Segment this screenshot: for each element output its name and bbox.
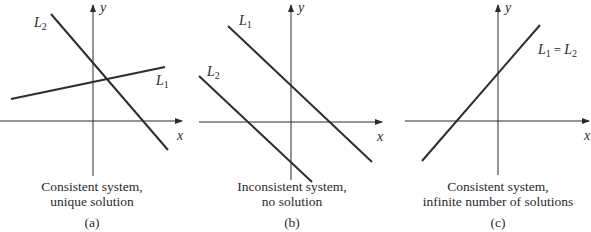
panel-c: y x L1=L2 Consistent system, infinite nu… [405, 0, 591, 230]
x-axis-label: x [176, 128, 184, 143]
panel-tag: (c) [491, 215, 506, 230]
x-axis-label: x [376, 129, 384, 144]
line-l2 [199, 76, 312, 182]
label-l1-equals-l2: L1=L2 [537, 42, 577, 59]
caption-line2: infinite number of solutions [423, 194, 573, 209]
panel-b: y x L1 L2 Inconsistent system, no soluti… [199, 0, 384, 230]
y-axis-label: y [503, 0, 512, 15]
panel-tag: (b) [284, 215, 300, 230]
caption-line1: Inconsistent system, [237, 179, 347, 194]
panel-tag: (a) [85, 215, 100, 230]
caption-line2: unique solution [50, 194, 134, 209]
label-l2: L2 [33, 15, 47, 32]
line-l1-l2 [422, 25, 540, 161]
line-l2 [51, 14, 168, 150]
panel-a: y x L2 L1 Consistent system, unique solu… [0, 0, 184, 230]
line-l1 [228, 26, 372, 162]
x-axis-label: x [583, 128, 591, 143]
y-axis-label: y [296, 0, 305, 15]
caption-line1: Consistent system, [41, 179, 142, 194]
label-l1: L1 [238, 13, 252, 30]
linear-systems-figure: y x L2 L1 Consistent system, unique solu… [0, 0, 591, 232]
label-l2: L2 [206, 64, 220, 81]
caption-line1: Consistent system, [447, 179, 548, 194]
label-l1: L1 [155, 73, 169, 90]
line-l1 [11, 67, 165, 99]
caption-line2: no solution [262, 194, 323, 209]
y-axis-label: y [98, 0, 107, 15]
